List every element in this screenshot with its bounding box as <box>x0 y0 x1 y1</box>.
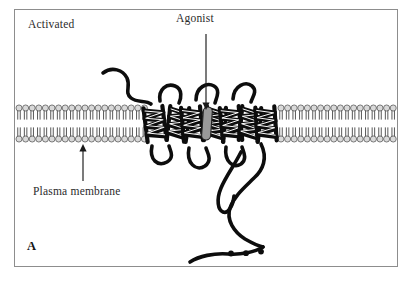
extracellular-loop-3 <box>233 84 255 102</box>
bilayer-left-upper-leaflet <box>16 105 148 120</box>
transmembrane-helix-1 <box>143 106 166 142</box>
figure-panel: Activated Agonist Plasma membrane A <box>0 0 413 282</box>
extracellular-loop-2 <box>196 85 218 103</box>
palmitoyl-dot <box>258 249 264 255</box>
plasma-membrane-pointer <box>79 144 86 181</box>
intracellular-loop-1 <box>151 146 171 164</box>
transmembrane-helix-3 <box>181 106 203 142</box>
lipid-bilayer-right <box>278 105 396 142</box>
lipid-bilayer-left <box>16 105 148 142</box>
c-terminal-anchor-segment <box>190 247 263 262</box>
receptor-backbone-loops <box>103 69 264 262</box>
palmitoyl-dot <box>243 250 249 256</box>
bilayer-right-upper-leaflet <box>278 105 396 120</box>
transmembrane-helix-7 <box>255 106 276 141</box>
plasma-membrane-label: Plasma membrane <box>33 185 121 197</box>
panel-letter: A <box>27 239 36 254</box>
agonist-label: Agonist <box>176 12 214 24</box>
intracellular-loop-2 <box>188 148 209 168</box>
bilayer-right-lower-leaflet <box>278 127 396 142</box>
bilayer-left-lower-leaflet <box>16 127 148 142</box>
diagram-canvas <box>0 0 413 282</box>
extracellular-loop-1 <box>160 85 181 103</box>
agonist-molecule <box>201 107 212 141</box>
agonist-pointer <box>202 34 209 110</box>
state-label-activated: Activated <box>28 18 75 30</box>
n-terminal-tail <box>103 69 151 104</box>
palmitoyl-dot <box>228 251 234 257</box>
